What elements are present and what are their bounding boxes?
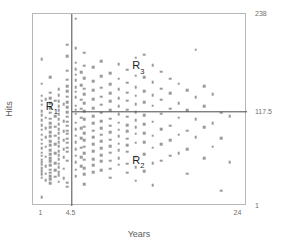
- data-point: [57, 154, 60, 157]
- data-point: [126, 116, 129, 119]
- data-point: [40, 110, 43, 113]
- data-point: [117, 63, 120, 66]
- data-point: [100, 95, 103, 98]
- data-point: [152, 146, 155, 149]
- x-axis-title: Years: [128, 229, 151, 239]
- data-point: [75, 148, 78, 151]
- data-point: [152, 104, 155, 107]
- data-point: [152, 64, 155, 67]
- data-point: [92, 158, 95, 161]
- data-point: [49, 171, 52, 174]
- data-point: [169, 92, 172, 95]
- data-point: [117, 157, 120, 160]
- data-point: [92, 89, 95, 92]
- data-point: [126, 99, 129, 102]
- data-point: [49, 168, 52, 171]
- data-point: [40, 163, 43, 166]
- data-point: [109, 176, 112, 179]
- data-point: [152, 120, 155, 123]
- data-point: [75, 121, 78, 124]
- data-point: [92, 107, 95, 110]
- data-point: [49, 140, 52, 143]
- data-point: [160, 112, 163, 115]
- data-point: [186, 148, 189, 151]
- y-axis-title: Hits: [4, 101, 14, 117]
- data-point: [229, 161, 232, 164]
- data-point: [75, 68, 78, 71]
- data-point: [117, 97, 120, 100]
- data-point: [40, 129, 43, 132]
- data-point: [49, 117, 52, 120]
- data-point: [134, 119, 137, 122]
- data-point: [63, 139, 66, 142]
- data-point: [126, 130, 129, 133]
- data-point: [100, 169, 103, 172]
- data-point: [66, 129, 69, 132]
- data-point: [80, 107, 83, 110]
- data-point: [57, 166, 60, 169]
- data-point: [66, 185, 69, 188]
- data-point: [211, 146, 214, 149]
- data-point: [109, 159, 112, 162]
- data-point: [80, 116, 83, 119]
- data-point: [83, 183, 86, 186]
- data-point: [75, 73, 78, 76]
- data-point: [126, 150, 129, 153]
- data-point: [143, 101, 146, 104]
- data-point: [134, 95, 137, 98]
- data-point: [75, 168, 78, 171]
- data-point: [100, 60, 103, 63]
- data-point: [169, 139, 172, 142]
- data-point: [109, 117, 112, 120]
- data-point: [75, 134, 78, 137]
- x-tick-label: 4.5: [66, 209, 76, 216]
- data-point: [83, 65, 86, 68]
- data-point: [83, 159, 86, 162]
- x-tick-label: 1: [39, 209, 43, 216]
- regression-tree-partition-figure: Hits Years R1R2R3 14.524 238117.51: [0, 0, 288, 250]
- data-point: [109, 83, 112, 86]
- data-point: [66, 111, 69, 114]
- data-point: [160, 70, 163, 73]
- data-point: [66, 159, 69, 162]
- data-point: [49, 131, 52, 134]
- data-point: [117, 105, 120, 108]
- data-point: [45, 146, 48, 149]
- data-point: [63, 103, 66, 106]
- data-point: [57, 150, 60, 153]
- data-point: [40, 196, 43, 199]
- data-point: [40, 124, 43, 127]
- data-point: [100, 120, 103, 123]
- data-point: [75, 128, 78, 131]
- data-point: [40, 154, 43, 157]
- data-point: [49, 126, 52, 129]
- data-point: [75, 96, 78, 99]
- data-point: [80, 84, 83, 87]
- data-point: [80, 146, 83, 149]
- data-point: [57, 163, 60, 166]
- data-point: [75, 18, 78, 21]
- data-point: [49, 160, 52, 163]
- data-point: [66, 181, 69, 184]
- data-point: [169, 78, 172, 81]
- data-point: [92, 150, 95, 153]
- data-point: [203, 126, 206, 129]
- data-point: [57, 141, 60, 144]
- data-point: [134, 126, 137, 129]
- data-point: [92, 164, 95, 167]
- y-tick-label: 238: [255, 10, 267, 17]
- data-point: [134, 133, 137, 136]
- data-point: [54, 134, 57, 137]
- region-label-subscript: 1: [54, 108, 58, 117]
- data-point: [160, 128, 163, 131]
- data-point: [143, 114, 146, 117]
- data-point: [126, 137, 129, 140]
- region-label-r3: R3: [132, 60, 144, 75]
- data-point: [80, 165, 83, 168]
- data-point: [126, 124, 129, 127]
- data-point: [194, 118, 197, 121]
- data-point: [40, 170, 43, 173]
- data-point: [160, 159, 163, 162]
- region-label-text: R: [46, 100, 54, 112]
- data-point: [63, 177, 66, 180]
